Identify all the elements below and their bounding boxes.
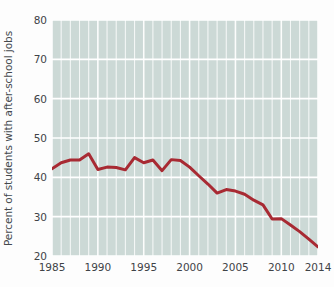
x-tick-2005: 2005 [222,262,249,273]
plot-svg [52,20,318,256]
x-tick-1990: 1990 [84,262,111,273]
y-axis-tick-labels: 20304050607080 [22,0,47,287]
data-line-series [52,154,318,247]
y-tick-20: 20 [22,251,47,262]
y-axis-label: Percent of students with after-school jo… [0,0,22,287]
y-tick-70: 70 [22,54,47,65]
x-tick-1995: 1995 [130,262,157,273]
line-chart: Percent of students with after-school jo… [0,0,334,287]
plot-area [52,20,318,256]
y-tick-60: 60 [22,93,47,104]
y-tick-80: 80 [22,15,47,26]
x-tick-2000: 2000 [176,262,203,273]
y-tick-40: 40 [22,172,47,183]
y-tick-30: 30 [22,211,47,222]
horizontal-gridlines [52,20,318,256]
x-tick-2014: 2014 [305,262,332,273]
y-tick-50: 50 [22,133,47,144]
x-tick-2010: 2010 [268,262,295,273]
y-axis-label-text: Percent of students with after-school jo… [2,31,20,256]
